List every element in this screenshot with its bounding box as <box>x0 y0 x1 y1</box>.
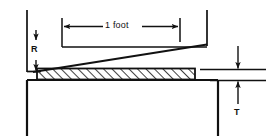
left-extension-line <box>27 10 41 72</box>
base-slab-outline <box>27 80 218 136</box>
diagram-svg <box>0 0 272 138</box>
span-label: 1 foot <box>105 21 129 30</box>
thickness-dimension <box>200 46 266 104</box>
hatched-topping-slab <box>37 69 195 80</box>
horizontal-datum-line <box>62 18 207 47</box>
thickness-label: T <box>234 108 240 117</box>
gap-label: R <box>31 45 38 54</box>
diagram-canvas: 1 foot R T <box>0 0 272 138</box>
